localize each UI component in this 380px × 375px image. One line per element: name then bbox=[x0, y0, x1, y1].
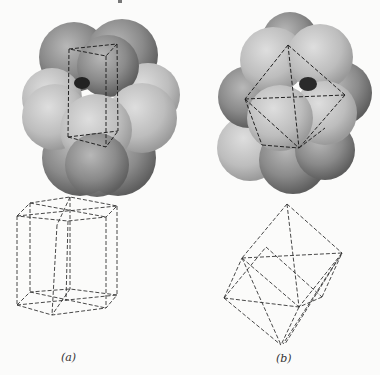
panel-a-label: (a) bbox=[61, 351, 76, 364]
panel-a-sphere-model bbox=[22, 19, 180, 197]
crystal-structure-figure bbox=[0, 0, 380, 375]
panel-b-label: (b) bbox=[276, 352, 292, 365]
panel-b-sphere-model bbox=[217, 12, 372, 194]
panel-b-wireframe-octahedron bbox=[224, 204, 342, 345]
panel-a-wireframe-hexagonal-prism bbox=[17, 197, 117, 315]
